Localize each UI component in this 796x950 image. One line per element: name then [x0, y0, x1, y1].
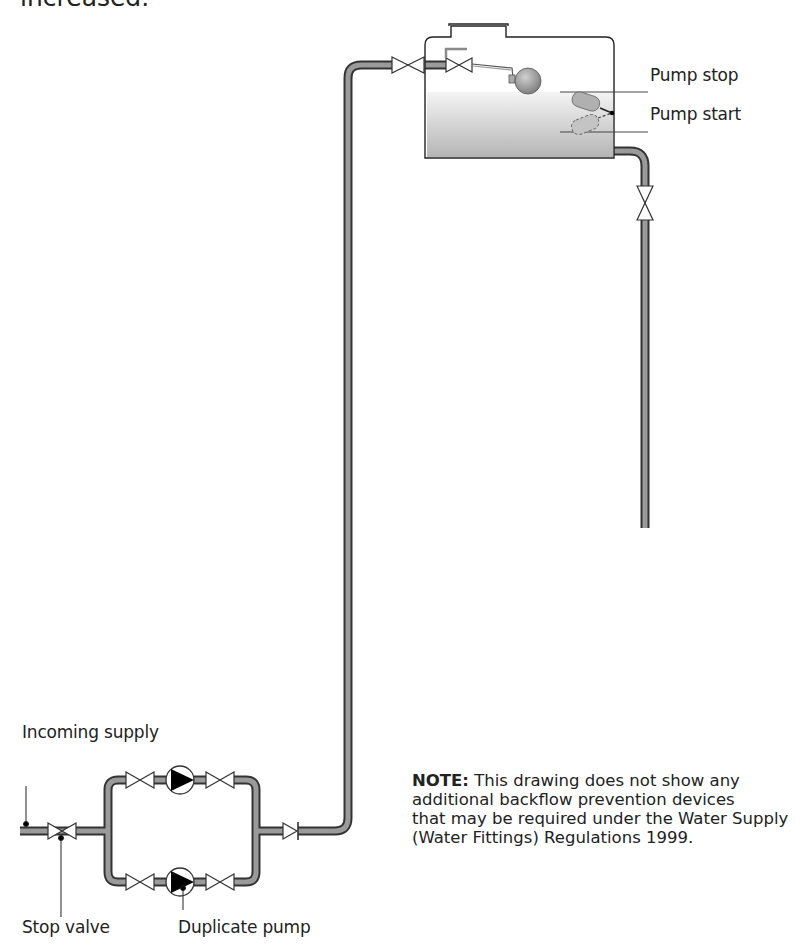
- isolating-valve-upper-left-icon: [126, 772, 154, 788]
- float-valve-assembly: [446, 49, 541, 94]
- note-line-3: that may be required under the Water Sup…: [412, 809, 796, 828]
- float-valve-body-icon: [446, 58, 472, 72]
- outlet-valve-icon: [637, 186, 653, 220]
- pipe-network: [20, 65, 645, 882]
- duplicate-pump-lower-icon: [166, 868, 194, 896]
- note-line-1: This drawing does not show any: [469, 771, 740, 790]
- note-line-4: (Water Fittings) Regulations 1999.: [412, 828, 796, 847]
- duplicate-pump-upper-icon: [166, 766, 194, 794]
- incoming-supply-label: Incoming supply: [22, 722, 159, 742]
- stop-valve-label: Stop valve: [22, 917, 110, 937]
- note-line-2: additional backflow prevention devices: [412, 790, 796, 809]
- check-valve-icon: [283, 822, 298, 840]
- pump-start-label: Pump start: [650, 104, 741, 124]
- note-prefix: NOTE:: [412, 771, 469, 790]
- pump-stop-label: Pump stop: [650, 65, 738, 85]
- duplicate-pump-label: Duplicate pump: [178, 917, 311, 937]
- isolating-valve-lower-left-icon: [126, 874, 154, 890]
- gate-valve-riser-icon: [392, 57, 424, 73]
- regulations-note: NOTE: This drawing does not show any add…: [412, 771, 796, 847]
- isolating-valve-lower-right-icon: [206, 874, 234, 890]
- isolating-valve-upper-right-icon: [206, 772, 234, 788]
